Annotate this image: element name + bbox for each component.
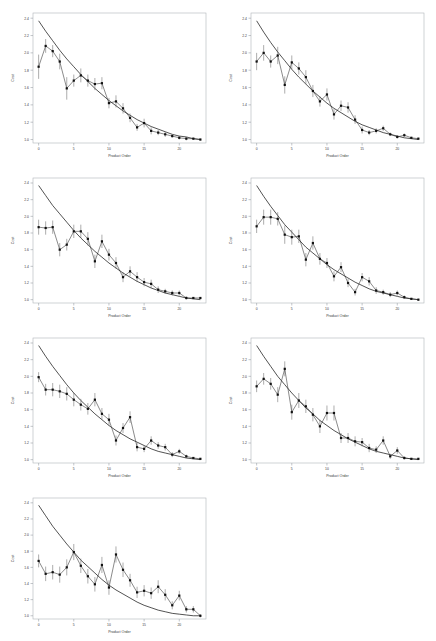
data-point <box>136 126 138 128</box>
fitted-curve <box>257 186 419 300</box>
fitted-curve <box>39 346 201 460</box>
data-point <box>87 238 89 240</box>
data-point <box>108 586 110 588</box>
x-tick-label: 10 <box>107 467 111 471</box>
y-tick-label: 1.8 <box>24 391 29 395</box>
plot-frame <box>251 13 424 143</box>
data-point <box>136 446 138 448</box>
data-point <box>150 439 152 441</box>
chart-panel-empty <box>218 485 436 641</box>
data-point <box>73 551 75 553</box>
y-tick-label: 2.2 <box>24 198 29 202</box>
y-tick-label: 2.4 <box>24 17 29 21</box>
x-tick-label: 5 <box>291 307 293 311</box>
chart-panel-7: 1.01.21.41.61.82.02.22.405101520Product … <box>0 485 218 641</box>
chart-panel-5: 1.01.21.41.61.82.02.22.405101520Product … <box>0 325 218 485</box>
y-tick-label: 1.6 <box>242 408 247 412</box>
data-point <box>136 276 138 278</box>
y-tick-label: 1.0 <box>24 458 29 462</box>
data-point <box>59 60 61 62</box>
x-tick-label: 10 <box>107 623 111 627</box>
data-point <box>298 235 300 237</box>
data-point <box>319 100 321 102</box>
data-point <box>256 60 258 62</box>
y-tick-label: 1.8 <box>24 231 29 235</box>
y-tick-label: 1.0 <box>24 138 29 142</box>
data-point <box>59 249 61 251</box>
observed-line <box>257 53 419 139</box>
y-tick-label: 1.6 <box>24 566 29 570</box>
data-point <box>368 280 370 282</box>
plot-frame <box>33 338 206 463</box>
x-tick-label: 15 <box>142 147 146 151</box>
x-tick-label: 20 <box>177 147 181 151</box>
data-point <box>38 376 40 378</box>
data-point <box>333 113 335 115</box>
data-point <box>73 230 75 232</box>
plot-area: 1.01.21.41.61.82.02.22.405101520Product … <box>218 325 436 485</box>
data-point <box>375 130 377 132</box>
fitted-curve <box>39 505 201 616</box>
data-point <box>185 297 187 299</box>
data-point <box>143 281 145 283</box>
plot-frame <box>33 13 206 143</box>
x-tick-label: 15 <box>360 307 364 311</box>
x-tick-label: 5 <box>291 147 293 151</box>
data-point <box>326 412 328 414</box>
y-axis-title: Cost <box>229 397 233 404</box>
x-tick-label: 5 <box>73 307 75 311</box>
y-tick-label: 1.0 <box>24 298 29 302</box>
observed-line <box>39 552 201 616</box>
data-point <box>305 76 307 78</box>
y-tick-label: 1.0 <box>242 298 247 302</box>
data-point <box>52 226 54 228</box>
data-point <box>45 45 47 47</box>
data-point <box>87 408 89 410</box>
y-tick-label: 2.2 <box>24 358 29 362</box>
data-point <box>333 275 335 277</box>
data-point <box>277 218 279 220</box>
data-point <box>59 390 61 392</box>
data-point <box>171 135 173 137</box>
data-point <box>326 93 328 95</box>
data-point <box>270 383 272 385</box>
data-point <box>129 579 131 581</box>
data-point <box>396 136 398 138</box>
data-point <box>396 292 398 294</box>
y-axis-title: Cost <box>229 237 233 244</box>
data-point <box>417 299 419 301</box>
data-point <box>122 569 124 571</box>
y-tick-label: 1.4 <box>24 425 29 429</box>
y-axis-title: Cost <box>11 237 15 244</box>
x-tick-label: 10 <box>107 307 111 311</box>
data-point <box>263 52 265 54</box>
data-point <box>403 296 405 298</box>
data-point <box>45 389 47 391</box>
data-point <box>66 393 68 395</box>
data-point <box>347 282 349 284</box>
data-point <box>192 297 194 299</box>
data-point <box>94 583 96 585</box>
data-point <box>178 137 180 139</box>
y-tick-label: 1.6 <box>24 86 29 90</box>
observed-line <box>257 369 419 459</box>
y-axis-title: Cost <box>11 397 15 404</box>
data-point <box>164 290 166 292</box>
fitted-curve <box>39 21 201 140</box>
data-point <box>192 457 194 459</box>
data-point <box>284 368 286 370</box>
x-tick-label: 0 <box>38 307 40 311</box>
data-point <box>80 565 82 567</box>
data-point <box>66 244 68 246</box>
data-point <box>73 80 75 82</box>
data-point <box>284 84 286 86</box>
y-tick-label: 2.0 <box>24 533 29 537</box>
y-tick-label: 1.2 <box>24 441 29 445</box>
data-point <box>143 448 145 450</box>
x-axis-title: Product Order <box>108 630 131 634</box>
y-tick-label: 2.4 <box>24 181 29 185</box>
data-point <box>94 399 96 401</box>
data-point <box>305 259 307 261</box>
data-point <box>361 441 363 443</box>
data-point <box>319 258 321 260</box>
